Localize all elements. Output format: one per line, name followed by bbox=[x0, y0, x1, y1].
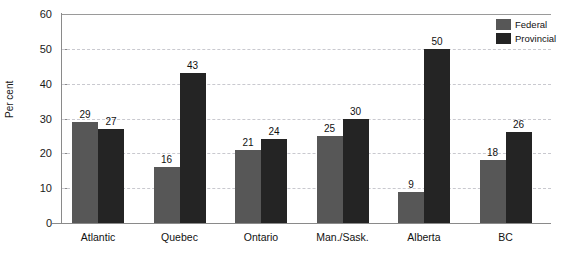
bar-value-label: 27 bbox=[105, 116, 116, 127]
bar-group: 2124 bbox=[235, 14, 287, 223]
plot-area: 29271643212425309501826 bbox=[62, 14, 551, 223]
y-axis-tick-label: 20 bbox=[30, 147, 52, 159]
legend-swatch bbox=[496, 33, 511, 44]
y-axis-title: Per cent bbox=[4, 81, 15, 118]
gridline bbox=[62, 119, 551, 120]
bar-value-label: 18 bbox=[487, 147, 498, 158]
x-axis-line bbox=[52, 223, 551, 224]
bar-group: 1643 bbox=[154, 14, 206, 223]
bar-federal[interactable]: 21 bbox=[235, 150, 261, 223]
bar-group: 950 bbox=[398, 14, 450, 223]
gridline bbox=[62, 84, 551, 85]
bar-provincial[interactable]: 50 bbox=[424, 49, 450, 223]
category-label: Atlantic bbox=[81, 231, 115, 243]
bar-value-label: 30 bbox=[350, 106, 361, 117]
category-label: Man./Sask. bbox=[316, 231, 369, 243]
gridline bbox=[62, 14, 551, 15]
y-axis-tick-label: 60 bbox=[30, 8, 52, 20]
y-axis-tick-label: 50 bbox=[30, 43, 52, 55]
bar-federal[interactable]: 16 bbox=[154, 167, 180, 223]
gridline bbox=[62, 153, 551, 154]
y-axis-tick-label: 30 bbox=[30, 113, 52, 125]
y-axis-tick-label: 40 bbox=[30, 78, 52, 90]
bar-value-label: 29 bbox=[79, 109, 90, 120]
bar-provincial[interactable]: 26 bbox=[506, 132, 532, 223]
bar-federal[interactable]: 9 bbox=[398, 192, 424, 223]
bar-value-label: 43 bbox=[187, 60, 198, 71]
y-axis-tick-label: 0 bbox=[30, 217, 52, 229]
bar-value-label: 9 bbox=[408, 179, 414, 190]
y-axis-tick-labels: 0102030405060 bbox=[30, 14, 52, 223]
legend-item[interactable]: Federal bbox=[496, 19, 556, 30]
bar-group: 1826 bbox=[480, 14, 532, 223]
legend-label: Federal bbox=[515, 19, 547, 30]
legend-item[interactable]: Provincial bbox=[496, 33, 556, 44]
bar-provincial[interactable]: 24 bbox=[261, 139, 287, 223]
bar-group: 2927 bbox=[72, 14, 124, 223]
bar-chart: Per cent 0102030405060 29271643212425309… bbox=[0, 0, 563, 256]
bar-value-label: 26 bbox=[513, 119, 524, 130]
bar-value-label: 21 bbox=[242, 137, 253, 148]
bar-provincial[interactable]: 27 bbox=[98, 129, 124, 223]
legend: FederalProvincial bbox=[496, 19, 556, 44]
category-label: BC bbox=[498, 231, 513, 243]
bar-provincial[interactable]: 30 bbox=[343, 119, 369, 224]
bar-value-label: 24 bbox=[268, 126, 279, 137]
category-label: Quebec bbox=[161, 231, 198, 243]
category-label: Ontario bbox=[244, 231, 278, 243]
gridline bbox=[62, 49, 551, 50]
gridline bbox=[62, 188, 551, 189]
legend-label: Provincial bbox=[515, 33, 556, 44]
bar-value-label: 25 bbox=[324, 123, 335, 134]
bar-federal[interactable]: 25 bbox=[317, 136, 343, 223]
category-label: Alberta bbox=[407, 231, 440, 243]
legend-swatch bbox=[496, 19, 511, 30]
bar-value-label: 50 bbox=[431, 36, 442, 47]
bar-group: 2530 bbox=[317, 14, 369, 223]
y-axis-tick-label: 10 bbox=[30, 182, 52, 194]
bar-federal[interactable]: 29 bbox=[72, 122, 98, 223]
bar-federal[interactable]: 18 bbox=[480, 160, 506, 223]
bar-value-label: 16 bbox=[161, 154, 172, 165]
bar-provincial[interactable]: 43 bbox=[180, 73, 206, 223]
